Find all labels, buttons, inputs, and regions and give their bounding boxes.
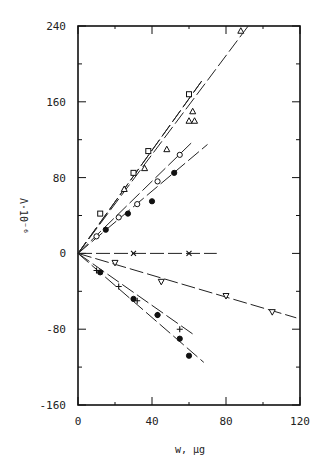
circle-marker: [155, 179, 160, 184]
triangle-down-marker: [158, 279, 164, 285]
y-tick-label: 0: [59, 247, 66, 260]
circle-marker: [94, 234, 99, 239]
circle-marker: [177, 152, 182, 157]
filled-circle-marker: [155, 312, 160, 317]
triangle-marker: [190, 108, 196, 114]
filled-circle-marker: [186, 353, 191, 358]
filled-circle-marker: [177, 336, 182, 341]
triangle-marker: [164, 146, 170, 152]
square-marker: [98, 211, 103, 216]
triangle-marker: [238, 28, 244, 34]
x-tick-label: 0: [75, 415, 82, 428]
x-tick-label: 120: [290, 415, 310, 428]
filled-circle-marker: [172, 170, 177, 175]
x-axis-label: w, µg: [175, 444, 205, 455]
y-tick-label: 160: [46, 96, 66, 109]
filled-circle-marker: [131, 296, 136, 301]
fit-lines: [78, 26, 296, 362]
circle-marker: [135, 202, 140, 207]
plot-border: [78, 26, 300, 405]
triangle-down-marker: [269, 310, 275, 316]
x-tick-label: 40: [145, 415, 158, 428]
filled-circle-marker: [125, 211, 130, 216]
plot-frame: [78, 26, 300, 405]
square-marker: [187, 92, 192, 97]
y-tick-label: 80: [53, 172, 66, 185]
y-tick-label: -80: [46, 323, 66, 336]
chart: 240160800-80-16004080120 w, µg Λ·10⁻⁶: [0, 0, 327, 473]
filled-circle-marker: [98, 270, 103, 275]
open-inverted-triangle-line: [78, 253, 296, 317]
triangle-marker: [142, 165, 148, 171]
square-marker: [146, 149, 151, 154]
plus-marker: [116, 284, 122, 290]
circle-marker: [116, 215, 121, 220]
square-marker: [131, 170, 136, 175]
triangle-mid-line: [78, 78, 204, 253]
axis-ticks: [78, 26, 300, 405]
triangle-marker: [186, 118, 192, 124]
x-tick-label: 80: [219, 415, 232, 428]
y-tick-label: 240: [46, 20, 66, 33]
triangle-marker: [192, 118, 198, 124]
y-tick-label: -160: [40, 399, 67, 412]
filled-circle-marker: [149, 199, 154, 204]
plus-line: [78, 253, 193, 334]
plus-marker: [177, 326, 183, 332]
filled-circle-marker: [103, 227, 108, 232]
open-triangle-steep-line: [78, 26, 248, 253]
y-axis-label: Λ·10⁻⁶: [18, 198, 29, 234]
